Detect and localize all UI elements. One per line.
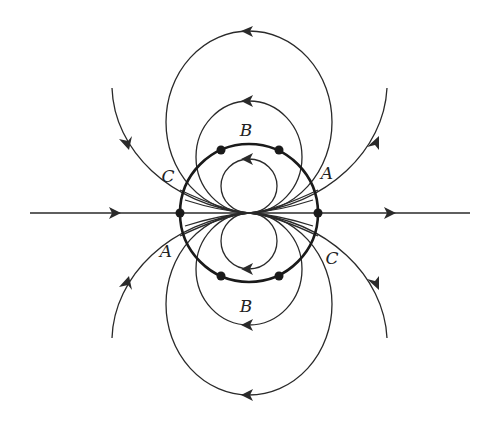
stagnation-point [176,209,185,218]
region-label-c-right: C [325,250,338,267]
stagnation-point [217,146,226,155]
open-streamline-bottom-right [249,213,387,338]
region-label-c-left: C [161,168,174,185]
open-streamline-top-right [249,88,387,213]
open-streamline-top-left [112,88,249,213]
diagram-canvas: B C A A C B [0,0,493,423]
open-streamline-bottom-left [112,213,249,338]
stagnation-point [217,272,226,281]
top-inner-loop [221,159,277,213]
stagnation-point [275,146,284,155]
region-label-b-bottom: B [240,298,253,315]
region-label-a-right: A [321,165,333,182]
stagnation-point [314,209,323,218]
region-label-a-left: A [160,243,172,260]
region-label-b-top: B [240,122,253,139]
bottom-inner-loop [221,213,277,269]
stagnation-point [275,272,284,281]
